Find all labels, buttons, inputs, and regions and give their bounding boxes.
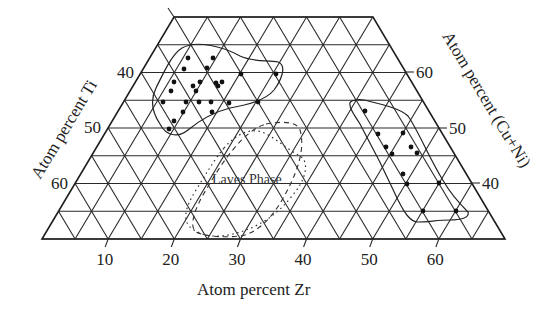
bottom-tick — [237, 239, 240, 247]
data-point — [274, 72, 279, 77]
data-point — [172, 80, 177, 85]
data-point — [172, 119, 177, 124]
data-point — [191, 84, 196, 89]
triangular-grid — [42, 17, 505, 239]
data-point — [194, 89, 199, 94]
bottom-tick — [171, 239, 174, 247]
data-point — [415, 151, 420, 156]
bottom-tick-label: 30 — [228, 250, 245, 269]
data-point — [437, 181, 442, 186]
bottom-tick-label: 50 — [361, 250, 378, 269]
data-point — [169, 89, 174, 94]
bottom-tick-label: 60 — [427, 250, 444, 269]
data-point — [401, 172, 406, 177]
data-point — [405, 182, 410, 187]
data-point — [220, 80, 225, 85]
bottom-tick — [105, 239, 108, 247]
left-tick-label: 40 — [117, 63, 134, 82]
data-point — [186, 56, 191, 61]
data-point — [454, 209, 459, 214]
grid-line-falling — [125, 100, 208, 239]
bottom-tick — [370, 239, 373, 247]
grid-line-rising — [274, 45, 390, 239]
data-point — [256, 100, 261, 105]
corner-leader-line — [168, 8, 174, 17]
bottom-tick — [436, 239, 439, 247]
data-point — [390, 152, 395, 157]
bottom-tick — [304, 239, 307, 247]
bottom-axis: 102030405060 — [96, 239, 444, 269]
bottom-axis-title: Atom percent Zr — [197, 280, 311, 299]
grid-line-falling — [59, 211, 76, 239]
data-point — [197, 100, 202, 105]
ternary-diagram: Laves Phase 102030405060 Atom percent Zr… — [0, 0, 545, 315]
bottom-tick-label: 10 — [96, 250, 113, 269]
data-point — [182, 67, 187, 72]
data-point — [211, 56, 216, 61]
left-tick-label: 60 — [51, 174, 68, 193]
grid-line-falling — [92, 156, 142, 239]
right-tick-label: 60 — [416, 63, 433, 82]
grid-line-rising — [472, 211, 489, 239]
data-point — [363, 109, 368, 114]
grid-line-rising — [406, 156, 456, 239]
data-point — [198, 80, 203, 85]
data-point — [384, 145, 389, 150]
data-point — [181, 110, 186, 115]
right-tick-label: 40 — [482, 174, 499, 193]
laves-phase-label: Laves Phase — [212, 172, 282, 187]
data-point — [216, 84, 221, 89]
data-point — [227, 101, 232, 106]
grid-line-falling — [158, 45, 274, 239]
bottom-tick-label: 40 — [295, 250, 312, 269]
data-point — [161, 100, 166, 105]
data-point — [167, 127, 172, 132]
data-point — [184, 100, 189, 105]
left-tick-label: 50 — [84, 118, 101, 137]
right-tick-label: 50 — [449, 119, 466, 138]
data-point — [205, 66, 210, 71]
data-point — [376, 132, 381, 137]
data-point — [209, 100, 214, 105]
data-point — [421, 209, 426, 214]
data-point — [239, 72, 244, 77]
data-point — [409, 145, 414, 150]
data-point — [401, 131, 406, 136]
data-point — [210, 110, 215, 115]
data-points — [161, 56, 459, 214]
bottom-tick-label: 20 — [162, 250, 179, 269]
right-axis-title: Atom percent (Cu+Ni) — [439, 28, 535, 171]
